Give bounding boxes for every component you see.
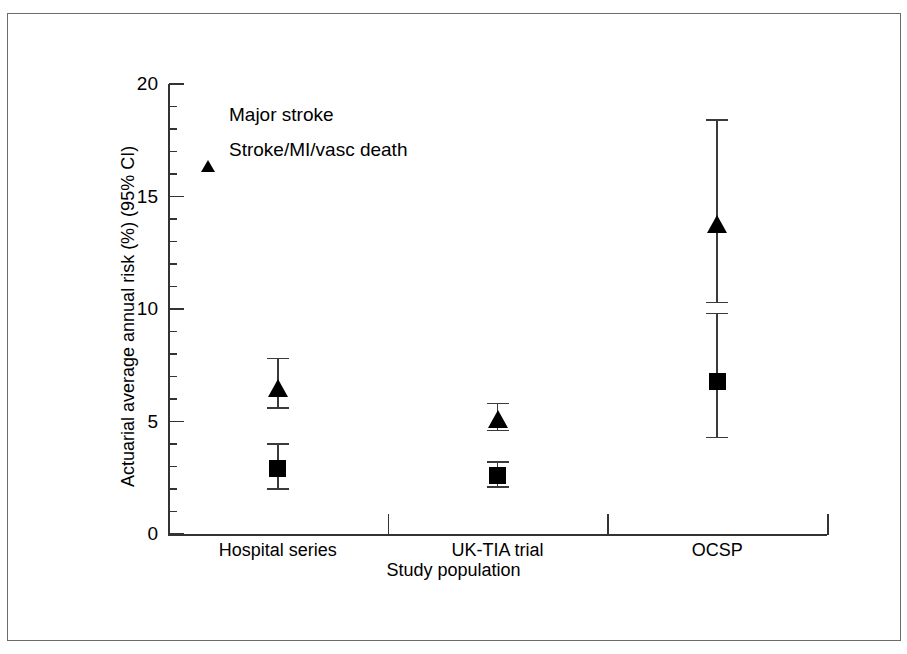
x-axis-category-label: UK-TIA trial — [398, 540, 598, 560]
x-axis-tick — [827, 514, 829, 535]
chart-plot-area: 05101520 Hospital seriesUK-TIA trialOCSP… — [0, 0, 907, 654]
y-axis-minor-tick — [169, 173, 177, 175]
x-axis-category-label: OCSP — [617, 540, 817, 560]
data-point-triangle-marker — [488, 410, 508, 428]
y-axis-minor-tick — [169, 353, 177, 355]
y-axis-minor-tick — [169, 106, 177, 108]
error-bar-lower-cap — [706, 437, 728, 439]
y-axis-tick-label: 20 — [118, 74, 158, 93]
data-point-square-marker — [489, 467, 506, 484]
y-axis-minor-tick — [169, 128, 177, 130]
y-axis-tick-label: 0 — [118, 524, 158, 543]
y-axis-minor-tick — [169, 331, 177, 333]
y-axis-minor-tick — [169, 376, 177, 378]
y-axis-minor-tick — [169, 286, 177, 288]
triangle-marker-icon — [201, 143, 215, 161]
y-axis-minor-tick — [169, 466, 177, 468]
y-axis-major-tick — [169, 196, 184, 198]
error-bar-upper-cap — [706, 119, 728, 121]
x-axis-tick — [607, 514, 609, 535]
data-point-square-marker — [709, 373, 726, 390]
error-bar-lower-cap — [487, 486, 509, 488]
y-axis-minor-tick — [169, 398, 177, 400]
y-axis-minor-tick — [169, 263, 177, 265]
error-bar-upper-cap — [267, 443, 289, 445]
legend-label-major-stroke: Major stroke — [229, 104, 334, 126]
y-axis-minor-tick — [169, 488, 177, 490]
error-bar-upper-cap — [487, 403, 509, 405]
x-axis-line — [168, 534, 827, 536]
y-axis-minor-tick — [169, 218, 177, 220]
x-axis-category-label: Hospital series — [178, 540, 378, 560]
data-point-square-marker — [269, 460, 286, 477]
x-axis-tick — [388, 514, 390, 535]
y-axis-major-tick — [169, 421, 184, 423]
error-bar-lower-cap — [267, 488, 289, 490]
x-axis-title: Study population — [0, 560, 907, 580]
y-axis-major-tick — [169, 308, 184, 310]
error-bar-line — [716, 120, 718, 302]
error-bar-upper-cap — [706, 313, 728, 315]
legend-label-stroke-mi-vasc-death: Stroke/MI/vasc death — [229, 139, 407, 161]
y-axis-minor-tick — [169, 151, 177, 153]
y-axis-major-tick — [169, 83, 184, 85]
error-bar-lower-cap — [487, 430, 509, 432]
data-point-triangle-marker — [707, 215, 727, 233]
error-bar-lower-cap — [706, 302, 728, 304]
error-bar-upper-cap — [267, 358, 289, 360]
y-axis-minor-tick — [169, 241, 177, 243]
error-bar-lower-cap — [267, 407, 289, 409]
y-axis-title: Actuarial average annual risk (%) (95% C… — [118, 146, 138, 487]
y-axis-minor-tick — [169, 443, 177, 445]
data-point-triangle-marker — [268, 379, 288, 397]
y-axis-major-tick — [169, 533, 184, 535]
error-bar-upper-cap — [487, 461, 509, 463]
y-axis-minor-tick — [169, 511, 177, 513]
